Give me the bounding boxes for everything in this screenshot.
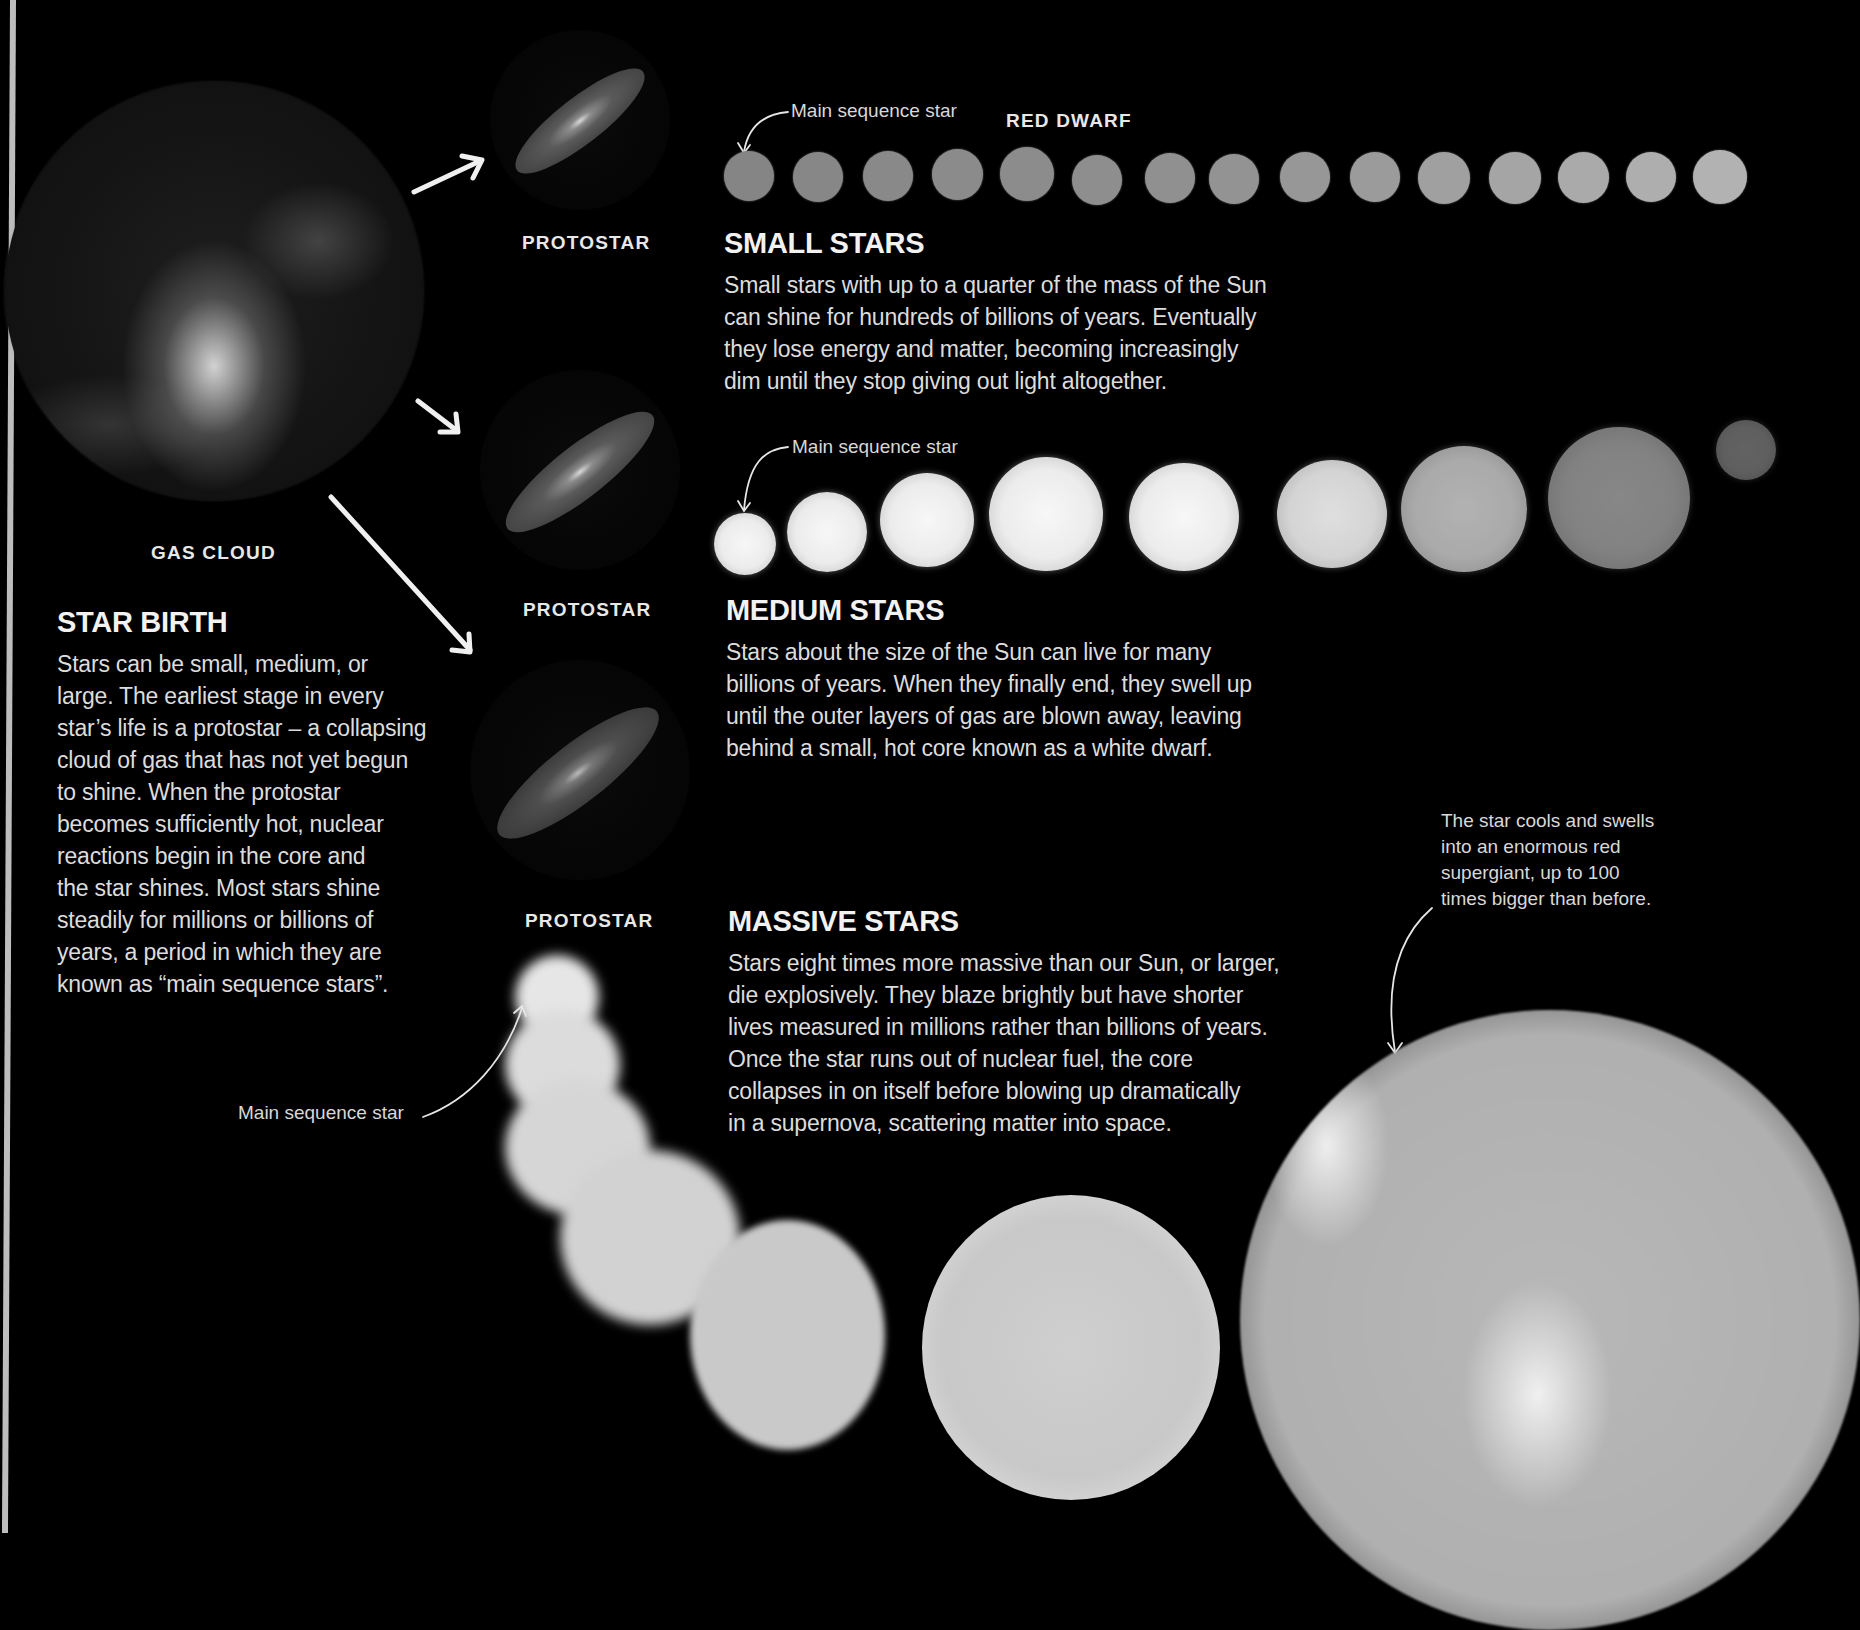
medium-star xyxy=(989,457,1103,571)
small-star-dot xyxy=(1489,152,1541,204)
text-line: into an enormous red xyxy=(1441,834,1721,860)
small-star-dot xyxy=(1350,152,1400,202)
medium-main-sequence-label: Main sequence star xyxy=(792,434,958,460)
medium-stars-body: Stars about the size of the Sun can live… xyxy=(726,636,1346,764)
small-star-dot xyxy=(1558,152,1609,203)
leader-medium-main-sequence-icon xyxy=(744,447,788,510)
small-star-dot xyxy=(1626,152,1676,202)
arrow-to-protostar-1-icon xyxy=(414,156,482,192)
small-star-dot xyxy=(1280,152,1330,202)
medium-star xyxy=(1277,460,1387,568)
small-star-dot xyxy=(1145,153,1195,203)
small-star-dot xyxy=(932,149,983,200)
small-star-dot xyxy=(793,152,843,202)
small-stars-heading: SMALL STARS xyxy=(724,227,924,260)
medium-star xyxy=(1548,427,1690,569)
small-star-dot xyxy=(1693,150,1747,204)
text-line: die explosively. They blaze brightly but… xyxy=(728,979,1368,1011)
red-supergiant xyxy=(1240,1010,1860,1630)
medium-star xyxy=(1129,463,1239,571)
medium-star xyxy=(880,473,974,567)
text-line: billions of years. When they finally end… xyxy=(726,668,1346,700)
text-line: collapses in on itself before blowing up… xyxy=(728,1075,1368,1107)
small-star-dot xyxy=(724,151,774,201)
small-star-dot xyxy=(1418,152,1470,204)
text-line: until the outer layers of gas are blown … xyxy=(726,700,1346,732)
text-line: Once the star runs out of nuclear fuel, … xyxy=(728,1043,1368,1075)
text-line: Stars eight times more massive than our … xyxy=(728,947,1368,979)
text-line: they lose energy and matter, becoming in… xyxy=(724,333,1344,365)
text-line: lives measured in millions rather than b… xyxy=(728,1011,1368,1043)
small-star-dot xyxy=(1209,154,1259,204)
small-star-dot xyxy=(1000,147,1054,201)
text-line: The star cools and swells xyxy=(1441,808,1721,834)
text-line: Stars about the size of the Sun can live… xyxy=(726,636,1346,668)
medium-stars-heading: MEDIUM STARS xyxy=(726,594,944,627)
blue-supergiant xyxy=(922,1195,1220,1500)
medium-star xyxy=(1716,420,1776,480)
small-star-dot xyxy=(863,151,913,201)
leader-supergiant-icon xyxy=(1391,908,1432,1052)
supergiant-note: The star cools and swells into an enormo… xyxy=(1441,808,1721,912)
text-line: in a supernova, scattering matter into s… xyxy=(728,1107,1368,1139)
medium-star xyxy=(787,492,867,572)
massive-stars-heading: MASSIVE STARS xyxy=(728,905,959,938)
small-stars-body: Small stars with up to a quarter of the … xyxy=(724,269,1344,397)
arrow-to-protostar-2-icon xyxy=(418,401,458,432)
massive-star-stage xyxy=(690,1220,885,1450)
text-line: behind a small, hot core known as a whit… xyxy=(726,732,1346,764)
text-line: dim until they stop giving out light alt… xyxy=(724,365,1344,397)
medium-star xyxy=(714,513,776,575)
text-line: can shine for hundreds of billions of ye… xyxy=(724,301,1344,333)
small-main-sequence-label: Main sequence star xyxy=(791,98,957,124)
massive-main-sequence-label: Main sequence star xyxy=(238,1100,404,1126)
arrow-to-protostar-3-icon xyxy=(331,497,470,652)
small-star-dot xyxy=(1072,155,1122,205)
text-line: times bigger than before. xyxy=(1441,886,1721,912)
massive-stars-body: Stars eight times more massive than our … xyxy=(728,947,1368,1139)
medium-star xyxy=(1401,446,1527,572)
leader-small-main-sequence-icon xyxy=(744,112,788,152)
red-dwarf-label: RED DWARF xyxy=(1006,110,1132,132)
text-line: supergiant, up to 100 xyxy=(1441,860,1721,886)
text-line: Small stars with up to a quarter of the … xyxy=(724,269,1344,301)
